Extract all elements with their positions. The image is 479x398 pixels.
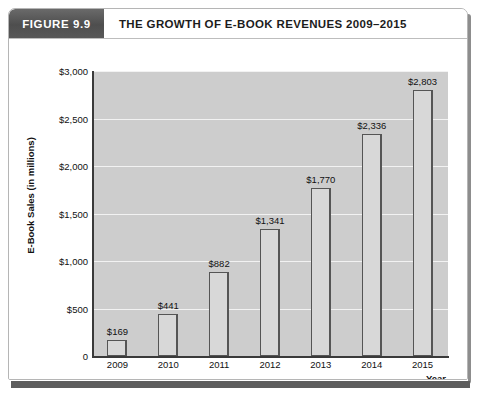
y-axis-tick-label: $3,000 [14, 66, 88, 77]
x-axis-tick-labels: 2009201020112012201320142015 [92, 359, 448, 375]
figure-number-label: FIGURE 9.9 [22, 18, 91, 30]
figure-number-badge: FIGURE 9.9 [9, 9, 104, 38]
bar-value-label: $441 [158, 300, 179, 311]
x-axis-tick-label: 2011 [194, 359, 245, 370]
y-axis-tick-label: $1,000 [14, 256, 88, 267]
card-shadow-right [468, 14, 471, 384]
figure-header: FIGURE 9.9 THE GROWTH OF E-BOOK REVENUES… [9, 9, 467, 39]
x-axis-tick-label: 2014 [346, 359, 397, 370]
bar-value-label: $882 [209, 258, 230, 269]
y-axis-tick-label: 0 [14, 351, 88, 362]
plot-area: $169$441$882$1,341$1,770$2,336$2,803 [92, 71, 448, 356]
bar-value-label: $2,803 [408, 76, 437, 87]
x-axis-line [92, 356, 449, 358]
figure-card: FIGURE 9.9 THE GROWTH OF E-BOOK REVENUES… [8, 8, 468, 380]
bar-column: $441 [143, 71, 194, 356]
figure-title-container: THE GROWTH OF E-BOOK REVENUES 2009–2015 [104, 9, 467, 38]
bar-value-label: $169 [107, 326, 128, 337]
y-axis-tick-label: $1,500 [14, 208, 88, 219]
y-axis-tick-labels: 0$500$1,000$1,500$2,000$2,500$3,000 [9, 40, 88, 380]
bar-2013 [311, 188, 331, 356]
bar-2012 [260, 229, 280, 356]
figure-title: THE GROWTH OF E-BOOK REVENUES 2009–2015 [119, 18, 407, 30]
bar-2011 [209, 272, 229, 356]
bar-column: $2,336 [346, 71, 397, 356]
card-shadow-bottom [11, 381, 470, 388]
bar-2014 [362, 134, 382, 356]
y-axis-tick-label: $2,000 [14, 161, 88, 172]
bar-column: $169 [92, 71, 143, 356]
x-axis-tick-label: 2015 [397, 359, 448, 370]
x-axis-tick-label: 2009 [92, 359, 143, 370]
bar-column: $1,770 [295, 71, 346, 356]
bar-column: $1,341 [245, 71, 296, 356]
bar-2015 [413, 90, 433, 356]
x-axis-title: Year [426, 373, 446, 380]
bar-value-label: $1,770 [306, 174, 335, 185]
bar-column: $882 [194, 71, 245, 356]
bar-column: $2,803 [397, 71, 448, 356]
x-axis-tick-label: 2012 [245, 359, 296, 370]
chart-body: E-Book Sales (in millions) 0$500$1,000$1… [9, 40, 467, 380]
bar-2010 [158, 314, 178, 356]
bar-2009 [107, 340, 127, 356]
y-axis-line [92, 71, 94, 357]
y-axis-tick-label: $500 [14, 303, 88, 314]
page-strip [0, 392, 479, 398]
x-axis-tick-label: 2013 [295, 359, 346, 370]
y-axis-tick-label: $2,500 [14, 113, 88, 124]
bar-value-label: $2,336 [357, 120, 386, 131]
x-axis-tick-label: 2010 [143, 359, 194, 370]
bar-value-label: $1,341 [255, 215, 284, 226]
